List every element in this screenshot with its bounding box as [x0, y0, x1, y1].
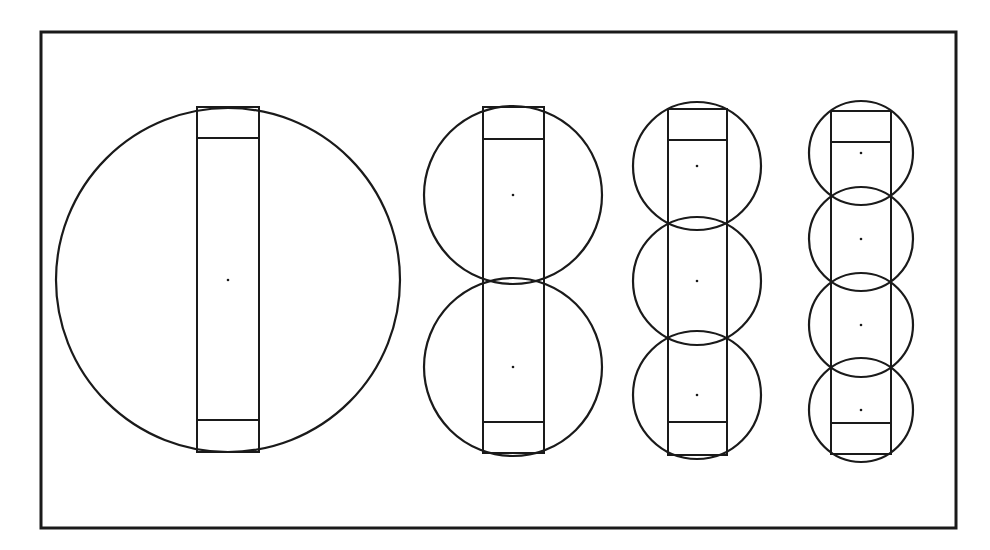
circle-center-dot: [512, 366, 515, 369]
circle-covering-diagram: [0, 0, 990, 550]
circle-center-dot: [860, 238, 863, 241]
group-three-circles: [633, 102, 761, 459]
circle-center-dot: [227, 279, 230, 282]
group-two-circles: [424, 106, 602, 456]
circle-center-dot: [696, 280, 699, 283]
circle-center-dot: [860, 409, 863, 412]
group-four-circles: [809, 101, 913, 462]
circle-center-dot: [512, 194, 515, 197]
circle-center-dot: [696, 165, 699, 168]
circle-center-dot: [696, 394, 699, 397]
circle-center-dot: [860, 324, 863, 327]
inscribed-rectangle: [831, 111, 891, 454]
circle-groups: [56, 101, 913, 462]
group-one-circle: [56, 107, 400, 452]
circle-center-dot: [860, 152, 863, 155]
